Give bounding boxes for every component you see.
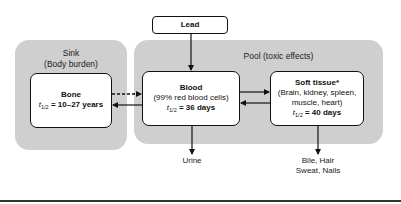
urine-output: Urine bbox=[172, 156, 212, 166]
bile-output-line2: Sweat, Nails bbox=[283, 166, 353, 176]
bottom-divider bbox=[0, 200, 401, 202]
bile-output-line1: Bile, Hair bbox=[288, 156, 348, 166]
